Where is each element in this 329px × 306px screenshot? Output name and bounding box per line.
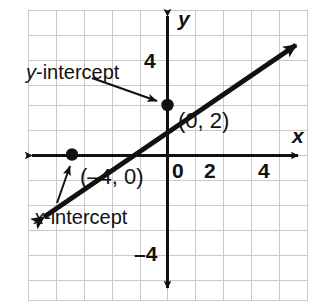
y-intercept-callout-var: y: [26, 61, 36, 83]
x-intercept-point-label: (–4, 0): [80, 166, 144, 188]
graph-figure: y x 4 –4 0 2 4 (0, 2) (–4, 0) y-intercep…: [0, 0, 329, 306]
x-intercept-dot: [66, 148, 78, 160]
y-intercept-callout: y-intercept: [26, 62, 119, 82]
y-tick-label-neg4: –4: [134, 243, 157, 264]
x-axis-label: x: [292, 125, 304, 146]
x-intercept-leader-line: [57, 166, 70, 203]
x-intercept-callout-var: x: [34, 206, 44, 228]
x-intercept-callout-rest: -intercept: [44, 206, 127, 228]
x-tick-label-4: 4: [258, 160, 270, 181]
x-tick-label-2: 2: [204, 160, 216, 181]
coordinate-plane: [0, 0, 329, 306]
y-intercept-callout-rest: -intercept: [36, 61, 119, 83]
x-intercept-callout: x-intercept: [34, 207, 127, 227]
y-tick-label-4: 4: [144, 50, 156, 71]
y-intercept-dot: [161, 99, 173, 111]
x-tick-label-0: 0: [172, 160, 184, 181]
y-axis-label: y: [178, 8, 190, 29]
y-intercept-point-label: (0, 2): [178, 110, 229, 132]
